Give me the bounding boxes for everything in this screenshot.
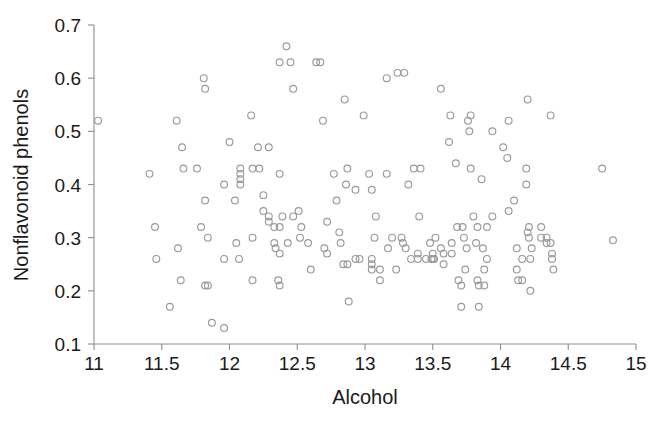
x-tick-label-group: 1111.51212.51313.51414.515 [84, 353, 646, 374]
data-point [204, 234, 211, 241]
x-tick-label-14.5: 14.5 [550, 353, 587, 374]
data-point [489, 128, 496, 135]
data-point [504, 155, 511, 162]
data-point [337, 240, 344, 247]
data-point [330, 170, 337, 177]
data-point [383, 170, 390, 177]
data-point [484, 256, 491, 263]
data-point [343, 181, 350, 188]
x-tick-group [94, 344, 636, 350]
data-point [173, 117, 180, 124]
data-point [462, 266, 469, 273]
data-point [372, 213, 379, 220]
data-point [377, 266, 384, 273]
data-point [448, 250, 455, 257]
data-point [410, 165, 417, 172]
data-point [260, 208, 267, 215]
data-point [547, 112, 554, 119]
data-point [481, 266, 488, 273]
y-tick-label-0.3: 0.3 [55, 228, 81, 249]
x-tick-label-11.5: 11.5 [144, 353, 180, 374]
data-point [610, 237, 617, 244]
data-point [352, 186, 359, 193]
data-point [467, 165, 474, 172]
data-point [470, 213, 477, 220]
data-point [177, 277, 184, 284]
y-tick-label-0.7: 0.7 [55, 15, 81, 36]
data-point [221, 325, 228, 332]
data-point [324, 250, 331, 257]
data-point [360, 112, 367, 119]
data-point [505, 208, 512, 215]
data-point [466, 128, 473, 135]
data-point [248, 112, 255, 119]
data-point [95, 117, 102, 124]
data-point [484, 224, 491, 231]
data-point [523, 165, 530, 172]
y-tick-label-0.6: 0.6 [55, 68, 81, 89]
data-point [401, 69, 408, 76]
data-point [344, 261, 351, 268]
data-point [221, 256, 228, 263]
data-point [298, 224, 305, 231]
data-point [416, 213, 423, 220]
y-tick-label-0.1: 0.1 [55, 334, 81, 355]
y-tick-label-0.2: 0.2 [55, 281, 81, 302]
data-point [489, 213, 496, 220]
data-point [307, 266, 314, 273]
data-point [500, 144, 507, 151]
data-point [523, 181, 530, 188]
data-point [166, 303, 173, 310]
data-point [202, 85, 209, 92]
data-point [284, 240, 291, 247]
data-point [366, 170, 373, 177]
data-point [458, 303, 465, 310]
x-tick-label-13.5: 13.5 [414, 353, 451, 374]
scatter-plot-figure: 1111.51212.51313.51414.515 0.10.20.30.40… [0, 0, 666, 423]
data-point [432, 234, 439, 241]
data-point [249, 165, 256, 172]
data-point [394, 69, 401, 76]
data-point [473, 240, 480, 247]
data-point [377, 277, 384, 284]
data-point [385, 245, 392, 252]
data-point [475, 303, 482, 310]
x-axis-title: Alcohol [332, 386, 398, 408]
data-point [368, 186, 375, 193]
data-point [287, 59, 294, 66]
data-point [256, 165, 263, 172]
data-point [527, 256, 534, 263]
data-point [513, 266, 520, 273]
data-point [179, 144, 186, 151]
data-point [461, 234, 468, 241]
data-point [341, 96, 348, 103]
y-tick-group [88, 25, 94, 344]
data-point [393, 266, 400, 273]
x-tick-label-14: 14 [490, 353, 512, 374]
data-point [336, 229, 343, 236]
data-point [194, 165, 201, 172]
data-point [511, 197, 518, 204]
data-point [202, 197, 209, 204]
data-point [153, 256, 160, 263]
data-point [356, 256, 363, 263]
x-tick-label-12.5: 12.5 [279, 353, 316, 374]
data-point [233, 240, 240, 247]
data-point [505, 117, 512, 124]
y-tick-label-0.4: 0.4 [55, 175, 82, 196]
data-point [345, 298, 352, 305]
data-point [448, 240, 455, 247]
data-point [260, 192, 267, 199]
data-point [208, 319, 215, 326]
data-point [467, 112, 474, 119]
data-point [290, 213, 297, 220]
data-point [283, 43, 290, 50]
data-point [295, 208, 302, 215]
data-point [599, 165, 606, 172]
data-point [175, 245, 182, 252]
data-point [447, 112, 454, 119]
data-point [519, 277, 526, 284]
data-point [232, 197, 239, 204]
data-point [276, 250, 283, 257]
plot-canvas: 1111.51212.51313.51414.515 0.10.20.30.40… [0, 0, 666, 423]
